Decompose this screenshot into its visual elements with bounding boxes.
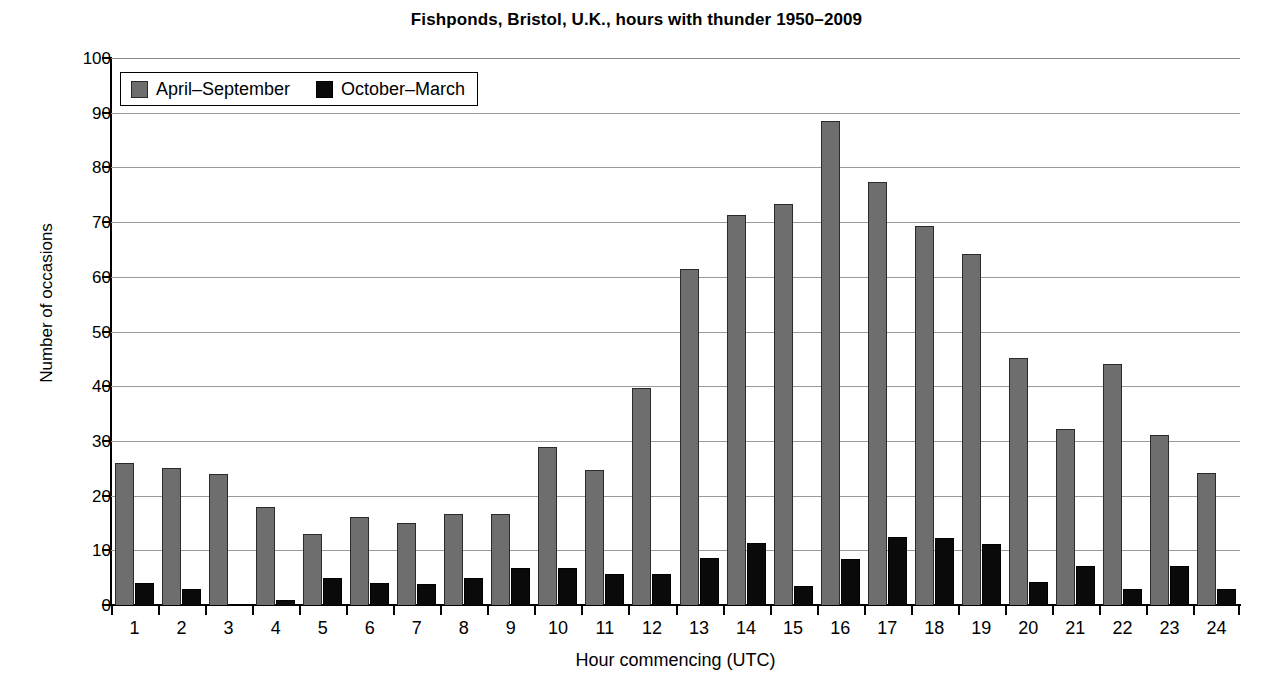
bar-april-september-hour-13 — [680, 269, 699, 605]
bar-october-march-hour-21 — [1076, 566, 1095, 605]
x-tick-mark — [1146, 606, 1148, 615]
x-tick-mark — [393, 606, 395, 615]
x-tick-mark — [1005, 606, 1007, 615]
bar-october-march-hour-18 — [935, 538, 954, 605]
x-tick-label-4: 4 — [253, 618, 299, 639]
x-tick-label-23: 23 — [1146, 618, 1192, 639]
x-tick-mark — [346, 606, 348, 615]
x-tick-mark — [299, 606, 301, 615]
x-axis-label: Hour commencing (UTC) — [111, 650, 1240, 671]
bar-october-march-hour-10 — [558, 568, 577, 605]
x-tick-mark — [1193, 606, 1195, 615]
bar-october-march-hour-24 — [1217, 589, 1236, 605]
bar-october-march-hour-1 — [135, 583, 154, 605]
bar-october-march-hour-20 — [1029, 582, 1048, 605]
bar-october-march-hour-4 — [276, 600, 295, 605]
legend-label-october-march: October–March — [341, 80, 465, 98]
bar-april-september-hour-21 — [1056, 429, 1075, 605]
bar-april-september-hour-14 — [727, 215, 746, 605]
legend-entry-october-march: October–March — [316, 80, 465, 98]
x-tick-mark — [534, 606, 536, 615]
bar-april-september-hour-18 — [915, 226, 934, 605]
x-tick-label-1: 1 — [112, 618, 158, 639]
gridline — [111, 113, 1240, 114]
bar-october-march-hour-12 — [652, 574, 671, 605]
thunder-hours-bar-chart: Fishponds, Bristol, U.K., hours with thu… — [0, 0, 1273, 697]
x-tick-label-8: 8 — [441, 618, 487, 639]
bar-april-september-hour-5 — [303, 534, 322, 605]
bar-april-september-hour-20 — [1009, 358, 1028, 605]
gridline — [111, 386, 1240, 387]
x-tick-mark — [440, 606, 442, 615]
bar-april-september-hour-17 — [868, 182, 887, 605]
x-tick-mark — [770, 606, 772, 615]
x-tick-mark — [205, 606, 207, 615]
bar-april-september-hour-3 — [209, 474, 228, 605]
x-tick-label-11: 11 — [582, 618, 628, 639]
gridline — [111, 222, 1240, 223]
bar-october-march-hour-8 — [464, 578, 483, 605]
bar-october-march-hour-22 — [1123, 589, 1142, 605]
chart-legend: April–September October–March — [120, 72, 478, 106]
x-tick-label-21: 21 — [1052, 618, 1098, 639]
gridline — [111, 167, 1240, 168]
legend-entry-april-september: April–September — [131, 80, 290, 98]
x-tick-mark — [158, 606, 160, 615]
x-tick-mark — [487, 606, 489, 615]
x-tick-mark — [676, 606, 678, 615]
x-tick-label-15: 15 — [770, 618, 816, 639]
bar-october-march-hour-2 — [182, 589, 201, 605]
legend-swatch-october-march — [316, 81, 333, 98]
bar-october-march-hour-15 — [794, 586, 813, 605]
bar-april-september-hour-10 — [538, 447, 557, 605]
bar-april-september-hour-6 — [350, 517, 369, 605]
plot-area — [111, 58, 1240, 605]
bar-april-september-hour-24 — [1197, 473, 1216, 605]
x-tick-mark — [1052, 606, 1054, 615]
x-tick-label-3: 3 — [206, 618, 252, 639]
bar-october-march-hour-13 — [700, 558, 719, 605]
bar-october-march-hour-23 — [1170, 566, 1189, 605]
x-tick-label-19: 19 — [958, 618, 1004, 639]
bar-october-march-hour-14 — [747, 543, 766, 605]
x-tick-label-16: 16 — [817, 618, 863, 639]
x-tick-label-22: 22 — [1099, 618, 1145, 639]
bar-april-september-hour-23 — [1150, 435, 1169, 605]
bar-october-march-hour-11 — [605, 574, 624, 605]
x-tick-mark — [864, 606, 866, 615]
x-tick-label-24: 24 — [1193, 618, 1239, 639]
bar-april-september-hour-4 — [256, 507, 275, 605]
gridline — [111, 277, 1240, 278]
x-tick-mark — [628, 606, 630, 615]
bar-april-september-hour-15 — [774, 204, 793, 605]
bar-october-march-hour-17 — [888, 537, 907, 605]
legend-swatch-april-september — [131, 81, 148, 98]
x-tick-mark — [111, 606, 113, 615]
y-axis-tick-labels: 0102030405060708090100 — [41, 58, 111, 605]
bar-april-september-hour-2 — [162, 468, 181, 605]
x-tick-mark — [252, 606, 254, 615]
bar-april-september-hour-11 — [585, 470, 604, 605]
bar-april-september-hour-7 — [397, 523, 416, 605]
bar-october-march-hour-16 — [841, 559, 860, 605]
x-axis-tick-marks — [111, 606, 1240, 615]
x-tick-label-7: 7 — [394, 618, 440, 639]
x-tick-label-5: 5 — [300, 618, 346, 639]
x-tick-mark — [723, 606, 725, 615]
x-tick-label-12: 12 — [629, 618, 675, 639]
bar-october-march-hour-7 — [417, 584, 436, 605]
bar-april-september-hour-19 — [962, 254, 981, 605]
bar-october-march-hour-5 — [323, 578, 342, 605]
gridline — [111, 332, 1240, 333]
x-tick-label-18: 18 — [911, 618, 957, 639]
bar-april-september-hour-9 — [491, 514, 510, 605]
bar-april-september-hour-16 — [821, 121, 840, 605]
bar-april-september-hour-22 — [1103, 364, 1122, 605]
chart-title: Fishponds, Bristol, U.K., hours with thu… — [0, 10, 1273, 30]
x-tick-label-6: 6 — [347, 618, 393, 639]
x-tick-mark — [1238, 606, 1240, 615]
legend-label-april-september: April–September — [156, 80, 290, 98]
bar-april-september-hour-8 — [444, 514, 463, 605]
x-tick-label-14: 14 — [723, 618, 769, 639]
x-tick-label-13: 13 — [676, 618, 722, 639]
